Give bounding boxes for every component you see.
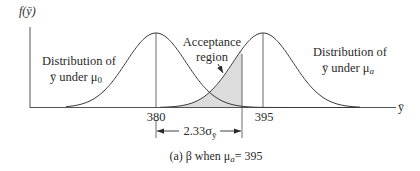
- y-axis-label: f(ȳ): [19, 4, 36, 18]
- x-axis-label: ȳ: [398, 100, 404, 114]
- left-distribution-label-line1: Distribution of: [42, 54, 117, 68]
- left-distribution-label-line2: ȳ under μ0: [50, 70, 103, 85]
- tick-label-395: 395: [255, 110, 274, 124]
- acceptance-label-line2: region: [196, 50, 229, 64]
- acceptance-pointer-arrow: [218, 64, 223, 73]
- acceptance-label-line1: Acceptance: [183, 35, 242, 49]
- tick-label-380: 380: [147, 110, 166, 124]
- beta-diagram: f(ȳ) Distribution of ȳ under μ0 Distribu…: [0, 0, 420, 171]
- right-distribution-label-line1: Distribution of: [313, 45, 388, 59]
- right-distribution-label-line2: ȳ under μa: [322, 61, 375, 76]
- distance-label: 2.33σȳ: [183, 124, 217, 140]
- caption: (a) β when μa= 395: [169, 149, 262, 164]
